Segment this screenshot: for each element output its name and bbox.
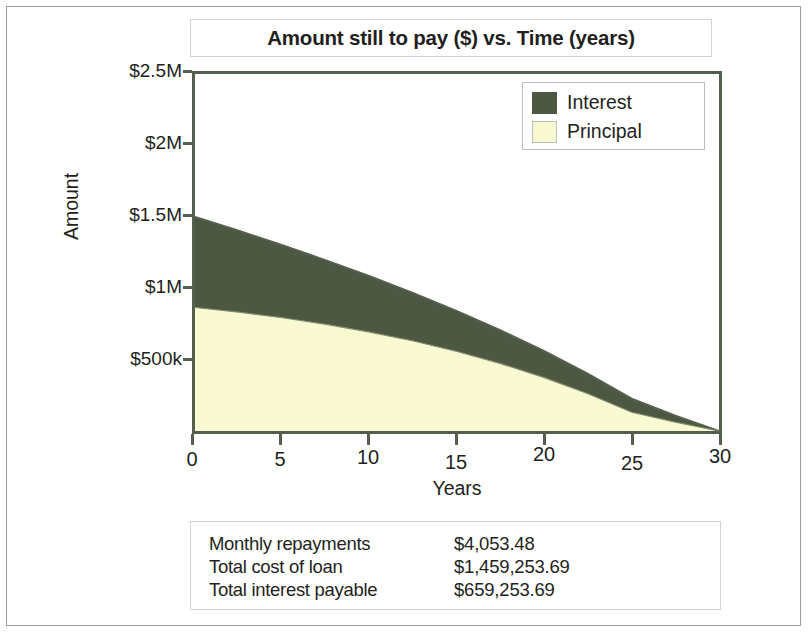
x-tick-label-0: 0 [170,448,214,471]
y-tick-label-1m: $1M [145,276,182,298]
x-tick-label-20: 20 [522,443,566,466]
legend-item-interest: Interest [532,88,704,117]
summary-label-monthly-repayments: Monthly repayments [209,533,454,555]
legend-swatch-interest-icon [532,92,557,114]
summary-label-total-interest: Total interest payable [209,579,454,601]
y-axis-title: Amount [60,127,83,287]
y-tick-label-2m: $2M [145,132,182,154]
legend-label-principal: Principal [567,120,642,143]
chart-title: Amount still to pay ($) vs. Time (years) [267,26,635,50]
summary-label-total-cost: Total cost of loan [209,556,454,578]
x-tick-mark-30 [719,434,722,445]
summary-value-total-interest: $659,253.69 [454,579,555,601]
chart-legend: Interest Principal [522,82,705,150]
table-row: Total cost of loan $1,459,253.69 [209,555,720,578]
loan-summary-table: Monthly repayments $4,053.48 Total cost … [190,521,721,610]
y-tick-mark-500k [183,358,192,361]
x-tick-label-15: 15 [434,451,478,474]
y-axis-tick-labels: $2.5M $2M $1.5M $1M $500k [80,0,182,634]
table-row: Monthly repayments $4,053.48 [209,532,720,555]
x-tick-label-10: 10 [346,446,390,469]
summary-value-monthly-repayments: $4,053.48 [454,533,535,555]
x-tick-mark-10 [367,434,370,445]
y-tick-label-2_5m: $2.5M [129,60,182,82]
legend-item-principal: Principal [532,117,704,146]
table-row: Total interest payable $659,253.69 [209,578,720,601]
chart-title-box: Amount still to pay ($) vs. Time (years) [190,19,712,57]
legend-swatch-principal-icon [532,121,557,143]
legend-label-interest: Interest [567,91,632,114]
y-tick-mark-1_5m [183,214,192,217]
y-tick-label-500k: $500k [130,348,182,370]
x-tick-mark-25 [631,434,634,445]
y-tick-mark-2m [183,142,192,145]
summary-value-total-cost: $1,459,253.69 [454,556,570,578]
y-tick-mark-1m [183,286,192,289]
x-tick-mark-5 [279,434,282,445]
x-tick-label-25: 25 [610,452,654,475]
page-root: Amount still to pay ($) vs. Time (years)… [0,0,811,634]
x-tick-label-5: 5 [258,448,302,471]
x-axis-title: Years [192,477,722,500]
x-tick-label-30: 30 [698,445,742,468]
y-tick-mark-2_5m [183,70,192,73]
x-tick-mark-15 [455,434,458,445]
y-tick-label-1_5m: $1.5M [129,204,182,226]
x-tick-mark-0 [191,434,194,445]
